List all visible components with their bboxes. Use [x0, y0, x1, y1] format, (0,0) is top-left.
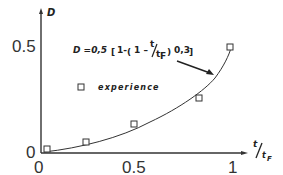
formula-annotation: D =0,5 [ 1- ( 1 – t t F ) 0,3 ]: [73, 39, 214, 75]
legend-label: experience: [98, 83, 160, 92]
legend: experience: [78, 83, 160, 92]
chart: D t t F 0 0.5 1 0 0.5 D =0,5 [ 1- ( 1 – …: [0, 0, 283, 175]
svg-text:t: t: [150, 39, 155, 49]
svg-text:F: F: [160, 51, 166, 61]
legend-marker: [78, 84, 84, 90]
svg-text:t: t: [253, 139, 258, 149]
model-curve: [44, 48, 231, 152]
svg-text:D =0,5: D =0,5: [73, 45, 107, 55]
svg-text:]: ]: [189, 47, 193, 57]
svg-text:): ): [167, 47, 171, 57]
svg-text:1-: 1-: [117, 45, 127, 55]
tick-x-0.5: 0.5: [122, 158, 146, 175]
svg-text:1 –: 1 –: [134, 45, 148, 55]
experience-points: [44, 44, 233, 152]
data-point: [227, 44, 233, 50]
y-axis-label: D: [47, 7, 55, 18]
data-point: [196, 95, 202, 101]
svg-text:[: [: [111, 47, 115, 57]
data-point: [131, 121, 137, 127]
tick-x-1: 1: [228, 158, 237, 175]
annotation-arrow: [177, 61, 210, 73]
svg-text:F: F: [267, 155, 272, 163]
svg-text:0,3: 0,3: [174, 45, 190, 55]
x-axis-arrow-icon: [241, 151, 248, 155]
svg-text:(: (: [127, 47, 131, 57]
data-point: [83, 139, 89, 145]
data-point: [44, 146, 50, 152]
tick-y-0: 0: [26, 143, 35, 162]
y-axis-arrow-icon: [39, 8, 43, 14]
x-axis-label: t t F: [253, 139, 272, 163]
tick-y-0.5: 0.5: [12, 37, 36, 56]
